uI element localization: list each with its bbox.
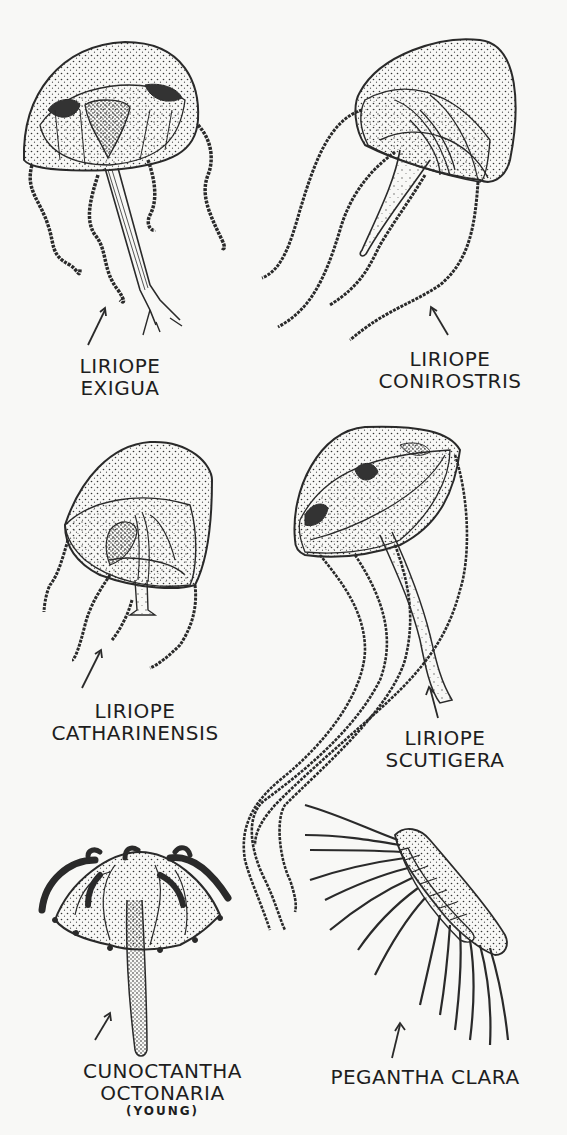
liriope-conirostris-drawing — [262, 39, 516, 340]
label-pegantha-clara: PEGANTHA CLARA — [295, 1066, 555, 1088]
label-cunoctantha-octonaria: CUNOCTANTHA OCTONARIA (YOUNG) — [70, 1060, 255, 1118]
label-line: LIRIOPE — [360, 348, 540, 370]
pegantha-clara-drawing — [305, 805, 508, 1058]
label-line: CONIROSTRIS — [360, 370, 540, 392]
label-liriope-scutigera: LIRIOPE SCUTIGERA — [365, 727, 525, 772]
label-liriope-catharinensis: LIRIOPE CATHARINENSIS — [35, 700, 235, 745]
jellyfish-illustration-plate: LIRIOPE EXIGUA LIRIOPE CONIROSTRIS LIRIO… — [0, 0, 567, 1135]
label-line: LIRIOPE — [35, 700, 235, 722]
illustration-artwork — [0, 0, 567, 1135]
label-line: LIRIOPE — [365, 727, 525, 749]
liriope-catharinensis-drawing — [44, 442, 212, 688]
label-liriope-conirostris: LIRIOPE CONIROSTRIS — [360, 348, 540, 393]
label-line: PEGANTHA CLARA — [295, 1066, 555, 1088]
label-line: LIRIOPE — [55, 355, 185, 377]
label-line: CUNOCTANTHA — [70, 1060, 255, 1082]
label-line: SCUTIGERA — [365, 749, 525, 771]
liriope-exigua-drawing — [24, 42, 224, 345]
label-liriope-exigua: LIRIOPE EXIGUA — [55, 355, 185, 400]
cunoctantha-octonaria-drawing — [42, 848, 228, 1056]
label-line: OCTONARIA — [70, 1082, 255, 1104]
label-line: CATHARINENSIS — [35, 722, 235, 744]
label-note-young: (YOUNG) — [70, 1105, 255, 1118]
label-line: EXIGUA — [55, 377, 185, 399]
